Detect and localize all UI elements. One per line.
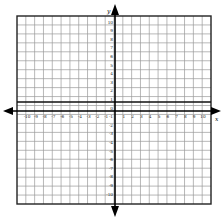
- x-axis-right-arrow-icon: [211, 107, 221, 115]
- y-tick-label: 10: [108, 20, 114, 25]
- x-tick-label: 7: [175, 114, 178, 119]
- y-tick-label: 5: [110, 63, 113, 68]
- x-tick-label: 8: [184, 114, 187, 119]
- x-tick-label: -3: [87, 114, 91, 119]
- y-axis-down-arrow-icon: [111, 206, 119, 217]
- x-axis-label: x: [215, 115, 219, 122]
- y-tick-label: 2: [110, 88, 113, 93]
- x-tick-label: 2: [131, 114, 134, 119]
- y-tick-label: -3: [109, 131, 113, 136]
- y-tick-label: -5: [109, 149, 113, 154]
- y-tick-label: -10: [106, 192, 113, 197]
- y-axis-up-arrow-icon: [111, 4, 119, 15]
- y-tick-label: 8: [110, 37, 113, 42]
- x-tick-label: -2: [95, 114, 99, 119]
- x-axis-left-arrow-icon: [3, 107, 13, 115]
- y-tick-label: 1: [110, 97, 113, 102]
- y-tick-label: 4: [110, 71, 113, 76]
- x-tick-label: 4: [149, 114, 152, 119]
- x-tick-label: -1: [104, 114, 108, 119]
- y-tick-label: 9: [110, 28, 113, 33]
- y-tick-labels: 109876543210-1-2-3-4-5-6-7-8-9-10: [106, 20, 113, 197]
- y-tick-label: -7: [109, 166, 113, 171]
- y-tick-label: 7: [110, 45, 113, 50]
- coordinate-plane: x y -10-9-8-7-6-5-4-3-2-112345678910 109…: [0, 0, 224, 222]
- x-tick-label: -10: [24, 114, 31, 119]
- y-tick-label: 6: [110, 54, 113, 59]
- x-tick-label: -7: [51, 114, 55, 119]
- x-tick-label: 10: [200, 114, 206, 119]
- x-tick-label: -8: [43, 114, 47, 119]
- y-tick-label: -2: [109, 123, 113, 128]
- y-tick-label: -8: [109, 174, 113, 179]
- x-tick-label: 1: [122, 114, 125, 119]
- y-tick-label: 3: [110, 80, 113, 85]
- y-tick-label: -1: [109, 114, 113, 119]
- x-tick-label: 3: [140, 114, 143, 119]
- y-axis-label: y: [106, 7, 111, 15]
- x-tick-label: 6: [166, 114, 169, 119]
- x-tick-label: -6: [60, 114, 64, 119]
- y-tick-label: -6: [109, 157, 113, 162]
- grid-lines: [17, 16, 211, 204]
- x-tick-label: -4: [78, 114, 82, 119]
- y-tick-label: 0: [110, 106, 113, 111]
- x-tick-label: -5: [69, 114, 73, 119]
- y-tick-label: -4: [109, 140, 113, 145]
- x-tick-label: 9: [193, 114, 196, 119]
- x-tick-label: 5: [158, 114, 161, 119]
- x-tick-label: -9: [34, 114, 38, 119]
- y-tick-label: -9: [109, 183, 113, 188]
